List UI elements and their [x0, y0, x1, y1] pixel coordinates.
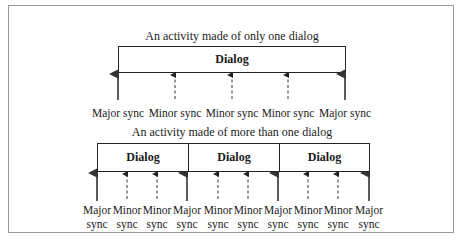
sync-label-minor: Minorsync	[294, 203, 323, 231]
sync-label-minor: Minor sync	[262, 106, 315, 120]
bottom-sync-arrows	[97, 173, 369, 201]
sync-label-minor: Minor sync	[206, 106, 259, 120]
sync-label-major: Major sync	[92, 106, 144, 120]
sync-label-minor: Minorsync	[204, 203, 233, 231]
sync-label-minor: Minorsync	[234, 203, 263, 231]
top-sync-arrows	[118, 74, 345, 100]
sync-label-major: Major sync	[319, 106, 371, 120]
sync-label-major: Majorsync	[264, 203, 292, 231]
bottom-diagram-title: An activity made of more than one dialog	[132, 125, 332, 140]
multi-dialog-box: Dialog Dialog Dialog	[97, 143, 370, 172]
sync-label-major: Majorsync	[83, 203, 111, 231]
sync-label-major: Majorsync	[173, 203, 201, 231]
sync-label-major: Majorsync	[355, 203, 383, 231]
sync-label-minor: Minor sync	[149, 106, 202, 120]
dialog-segment-3: Dialog	[279, 144, 369, 171]
dialog-segment-1: Dialog	[98, 144, 188, 171]
dialog-segment-2: Dialog	[188, 144, 279, 171]
sync-label-minor: Minorsync	[113, 203, 142, 231]
sync-label-minor: Minorsync	[143, 203, 172, 231]
sync-label-minor: Minorsync	[324, 203, 353, 231]
